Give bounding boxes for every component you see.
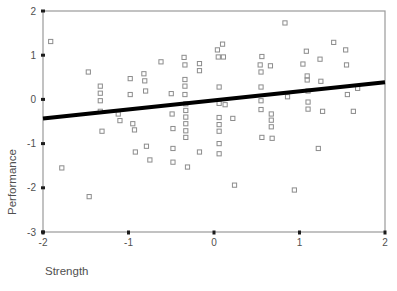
data-point-marker: [171, 160, 175, 164]
data-point-marker: [269, 112, 273, 116]
data-point-marker: [258, 63, 262, 67]
y-axis-tick: [41, 186, 45, 189]
y-axis-tick: [41, 98, 45, 101]
data-point-marker: [260, 135, 264, 139]
y-axis-tick: [41, 10, 45, 13]
data-point-marker: [344, 48, 348, 52]
data-point-marker: [217, 152, 221, 156]
data-point-marker: [159, 60, 163, 64]
y-axis-tick-label: -1: [27, 138, 36, 149]
data-point-marker: [306, 100, 310, 104]
data-point-marker: [86, 70, 90, 74]
data-point-marker: [183, 63, 187, 67]
data-point-marker: [183, 77, 187, 81]
data-point-marker: [270, 136, 274, 140]
data-point-marker: [132, 128, 136, 132]
x-axis-tick-label: 0: [211, 237, 217, 248]
data-point-marker: [197, 150, 201, 154]
data-point-marker: [143, 79, 147, 83]
data-point-marker: [304, 49, 308, 53]
plot-canvas: 210-1-2-3 -2-1012 Strength Performance: [0, 0, 397, 291]
y-axis-tick: [41, 142, 45, 145]
data-point-marker: [221, 55, 225, 59]
y-axis-tick-label: -2: [27, 182, 36, 193]
data-point-marker: [184, 115, 188, 119]
data-point-marker: [320, 109, 324, 113]
data-point-marker: [185, 165, 189, 169]
data-point-marker: [100, 129, 104, 133]
data-point-marker: [184, 122, 188, 126]
data-point-marker: [259, 107, 263, 111]
data-point-marker: [184, 135, 188, 139]
data-point-marker: [148, 158, 152, 162]
y-axis-tick-label: 1: [30, 50, 36, 61]
x-axis-tick: [213, 231, 216, 235]
y-axis-tick-label: 0: [30, 94, 36, 105]
data-point-marker: [217, 129, 221, 133]
y-axis: 210-1-2-3: [27, 6, 45, 238]
data-point-marker: [231, 116, 235, 120]
data-point-marker: [133, 150, 137, 154]
data-point-marker: [144, 144, 148, 148]
data-point-marker: [217, 85, 221, 89]
data-point-marker: [216, 55, 220, 59]
data-point-marker: [128, 77, 132, 81]
data-point-marker: [292, 188, 296, 192]
data-point-marker: [259, 70, 263, 74]
data-point-marker: [184, 108, 188, 112]
x-axis-tick-label: 1: [297, 237, 303, 248]
data-point-marker: [351, 109, 355, 113]
data-point-marker: [283, 21, 287, 25]
data-point-marker: [183, 84, 187, 88]
y-axis-title: Performance: [6, 149, 18, 215]
data-point-marker: [232, 183, 236, 187]
data-point-marker: [169, 92, 173, 96]
data-point-marker: [217, 122, 221, 126]
data-point-marker: [332, 40, 336, 44]
data-point-marker: [345, 92, 349, 96]
data-point-marker: [269, 125, 273, 129]
data-point-marker: [87, 195, 91, 199]
data-point-marker: [182, 55, 186, 59]
x-axis-tick: [127, 231, 130, 235]
data-point-marker: [259, 85, 263, 89]
data-point-marker: [197, 69, 201, 73]
data-point-marker: [131, 122, 135, 126]
data-point-marker: [217, 115, 221, 119]
data-point-marker: [217, 142, 221, 146]
data-point-marker: [128, 92, 132, 96]
x-axis: -2-1012: [39, 231, 389, 249]
data-point-marker: [285, 95, 289, 99]
data-point-marker: [259, 99, 263, 103]
data-point-marker: [98, 84, 102, 88]
y-axis-tick-label: -3: [27, 227, 36, 238]
fit-line-segment: [43, 82, 385, 118]
data-point-marker: [171, 146, 175, 150]
data-point-marker: [217, 101, 221, 105]
data-point-marker: [183, 92, 187, 96]
data-point-marker: [98, 91, 102, 95]
data-point-marker: [301, 62, 305, 66]
data-point-marker: [170, 112, 174, 116]
data-point-marker: [319, 79, 323, 83]
x-axis-tick: [42, 231, 45, 235]
x-axis-tick: [298, 231, 301, 235]
data-point-marker: [197, 62, 201, 66]
data-point-marker: [142, 72, 146, 76]
x-axis-tick: [384, 231, 387, 235]
data-point-marker: [316, 146, 320, 150]
data-point-marker: [49, 39, 53, 43]
data-point-marker: [344, 63, 348, 67]
data-point-marker: [223, 103, 227, 107]
data-point-marker: [144, 89, 148, 93]
data-point-series: [49, 21, 360, 199]
data-point-marker: [215, 48, 219, 52]
x-axis-tick-label: -1: [124, 237, 133, 248]
x-axis-tick-label: -2: [39, 237, 48, 248]
data-point-marker: [269, 118, 273, 122]
regression-line: [43, 82, 385, 118]
data-point-marker: [184, 129, 188, 133]
y-axis-tick-label: 2: [30, 6, 36, 17]
scatter-plot-figure: 210-1-2-3 -2-1012 Strength Performance: [0, 0, 397, 291]
data-point-marker: [98, 99, 102, 103]
